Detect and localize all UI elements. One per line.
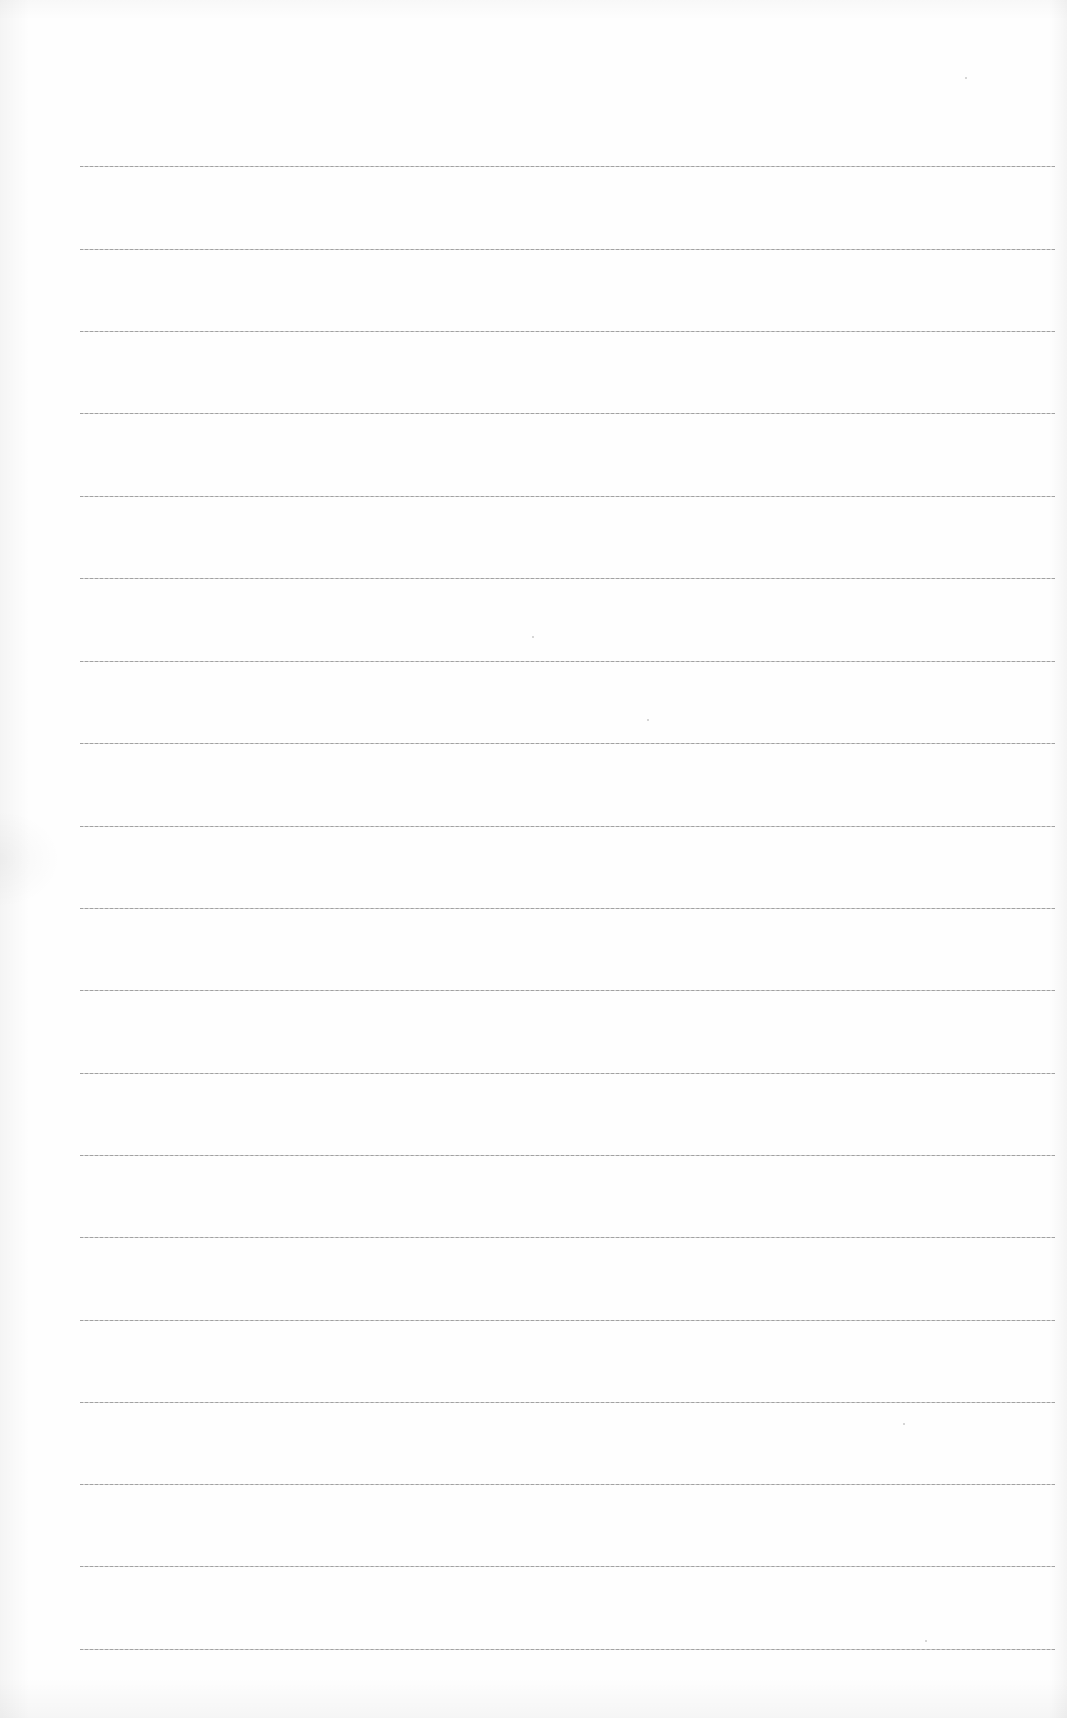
ruled-line — [80, 1566, 1055, 1568]
ruled-line — [80, 413, 1055, 415]
ruled-line — [80, 578, 1055, 580]
ruled-line — [80, 1402, 1055, 1404]
ruled-line — [80, 496, 1055, 498]
ruled-line — [80, 1484, 1055, 1486]
ruled-line — [80, 1320, 1055, 1322]
ruled-line — [80, 1155, 1055, 1157]
ruled-line — [80, 1073, 1055, 1075]
ruled-line — [80, 166, 1055, 168]
ruled-line — [80, 1649, 1055, 1651]
ruled-line — [80, 826, 1055, 828]
paper-speck — [903, 1423, 905, 1425]
ruled-line — [80, 249, 1055, 251]
ruled-line — [80, 908, 1055, 910]
ruled-line — [80, 743, 1055, 745]
ruled-line — [80, 990, 1055, 992]
lined-paper-sheet — [0, 0, 1067, 1718]
paper-speck — [647, 719, 649, 721]
paper-speck — [925, 1640, 927, 1642]
ruled-line — [80, 661, 1055, 663]
ruled-line — [80, 1237, 1055, 1239]
ruled-line — [80, 331, 1055, 333]
paper-speck — [965, 77, 967, 79]
paper-speck — [532, 636, 534, 638]
